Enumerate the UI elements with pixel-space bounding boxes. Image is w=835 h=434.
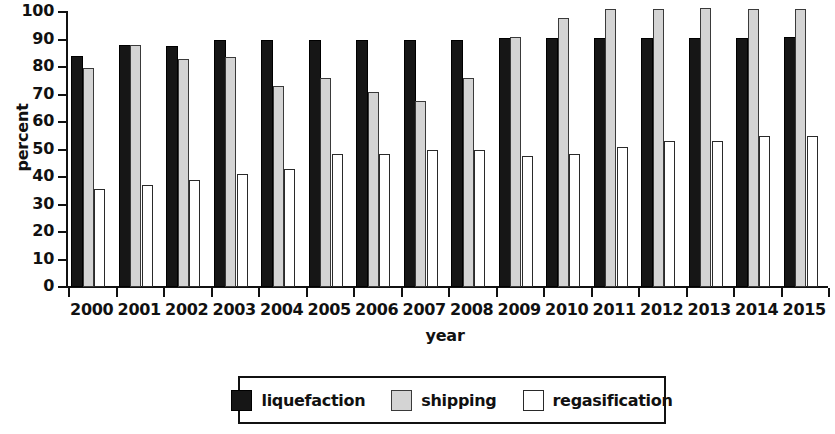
bar-regasification-2000 [94, 189, 105, 287]
bar-shipping-2001 [130, 45, 141, 287]
bar-liquefaction-2011 [594, 38, 606, 287]
bar-group [499, 12, 539, 287]
y-tick-mark [58, 286, 67, 288]
bar-shipping-2004 [273, 86, 284, 287]
y-tick-mark [58, 204, 67, 206]
bar-regasification-2003 [237, 174, 248, 287]
y-tick-mark [58, 149, 67, 151]
y-tick-label: 40 [8, 168, 54, 184]
bar-shipping-2002 [178, 59, 189, 287]
y-tick-label-wrap: 100 [0, 3, 54, 19]
bar-shipping-2011 [605, 9, 616, 287]
bar-liquefaction-2001 [119, 45, 131, 287]
bar-liquefaction-2013 [689, 38, 701, 287]
y-tick-mark [58, 11, 67, 13]
bar-group [594, 12, 634, 287]
x-tick-mark [591, 288, 593, 297]
bar-shipping-2003 [225, 57, 236, 287]
x-tick-mark [116, 288, 118, 297]
bar-group [356, 12, 396, 287]
bar-group [309, 12, 349, 287]
legend-swatch-liquefaction-icon [231, 390, 252, 411]
x-tick-mark [781, 288, 783, 297]
y-tick-label: 20 [8, 223, 54, 239]
bar-group [71, 12, 111, 287]
bar-regasification-2011 [617, 147, 628, 287]
bar-regasification-2001 [142, 185, 153, 287]
bar-liquefaction-2002 [166, 46, 178, 287]
bar-shipping-2007 [415, 101, 426, 287]
bar-shipping-2008 [463, 78, 474, 287]
bar-regasification-2008 [474, 150, 485, 288]
y-tick-mark [58, 39, 67, 41]
y-tick-label: 70 [8, 86, 54, 102]
y-tick-label-wrap: 50 [0, 141, 54, 157]
legend-label-regasification: regasification [553, 391, 673, 410]
y-tick-label-wrap: 90 [0, 31, 54, 47]
y-tick-label-wrap: 30 [0, 196, 54, 212]
bar-regasification-2002 [189, 180, 200, 287]
bar-liquefaction-2005 [309, 40, 321, 288]
x-tick-mark [543, 288, 545, 297]
bar-liquefaction-2009 [499, 38, 511, 287]
x-tick-mark [733, 288, 735, 297]
x-tick-mark [686, 288, 688, 297]
bar-liquefaction-2010 [546, 38, 558, 287]
y-tick-mark [58, 176, 67, 178]
bar-regasification-2006 [379, 154, 390, 287]
legend-item-shipping: shipping [378, 390, 509, 411]
bar-regasification-2009 [522, 156, 533, 287]
bar-shipping-2000 [83, 68, 94, 287]
y-tick-label: 100 [8, 3, 54, 19]
bar-liquefaction-2014 [736, 38, 748, 287]
bar-liquefaction-2012 [641, 38, 653, 287]
y-tick-label-wrap: 60 [0, 113, 54, 129]
x-tick-mark [258, 288, 260, 297]
y-tick-label-wrap: 80 [0, 58, 54, 74]
x-tick-label-2015: 2015 [776, 300, 832, 319]
x-tick-mark [306, 288, 308, 297]
bar-chart: percent 0102030405060708090100 200020012… [0, 0, 835, 434]
legend-swatch-shipping-icon [391, 390, 412, 411]
chart-legend: liquefactionshippingregasification [238, 376, 666, 424]
y-tick-mark [58, 259, 67, 261]
y-tick-label-wrap: 70 [0, 86, 54, 102]
bar-group [546, 12, 586, 287]
y-tick-mark [58, 231, 67, 233]
bar-group [404, 12, 444, 287]
bar-group [736, 12, 776, 287]
bar-shipping-2012 [653, 9, 664, 287]
legend-item-regasification: regasification [510, 390, 686, 411]
legend-label-shipping: shipping [421, 391, 496, 410]
bar-shipping-2005 [320, 78, 331, 287]
bar-group [689, 12, 729, 287]
legend-item-liquefaction: liquefaction [218, 390, 378, 411]
y-tick-label: 10 [8, 251, 54, 267]
bar-shipping-2015 [795, 9, 806, 287]
bar-group [119, 12, 159, 287]
bar-liquefaction-2006 [356, 40, 368, 288]
x-tick-mark [638, 288, 640, 297]
bar-shipping-2006 [368, 92, 379, 287]
y-tick-label: 80 [8, 58, 54, 74]
x-tick-mark [496, 288, 498, 297]
bar-regasification-2014 [759, 136, 770, 287]
bar-shipping-2014 [748, 9, 759, 287]
x-tick-mark [211, 288, 213, 297]
y-tick-mark [58, 94, 67, 96]
y-tick-label: 30 [8, 196, 54, 212]
bar-liquefaction-2007 [404, 40, 416, 288]
bar-group [214, 12, 254, 287]
bar-liquefaction-2000 [71, 56, 83, 287]
y-tick-label-wrap: 10 [0, 251, 54, 267]
x-tick-mark [401, 288, 403, 297]
bar-group [784, 12, 824, 287]
bar-group [451, 12, 491, 287]
x-tick-mark [448, 288, 450, 297]
bar-liquefaction-2015 [784, 37, 796, 287]
bar-liquefaction-2004 [261, 40, 273, 288]
y-tick-label-wrap: 0 [0, 278, 54, 294]
y-tick-label: 0 [8, 278, 54, 294]
bar-regasification-2005 [332, 154, 343, 287]
x-axis-title: year [0, 326, 835, 345]
